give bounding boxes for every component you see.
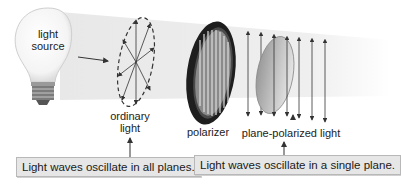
plane-polarized-light-label: plane-polarized light (236, 127, 346, 139)
ordinary-light-label: ordinary light (105, 110, 155, 134)
light-source-label: light source (28, 28, 68, 52)
caption-all-planes: Light waves oscillate in all planes. (16, 157, 201, 177)
polarizer-label: polarizer (178, 126, 238, 138)
caption-single-plane: Light waves oscillate in a single plane. (194, 155, 401, 175)
